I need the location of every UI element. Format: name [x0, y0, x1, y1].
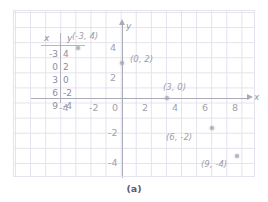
y-tick-label-neg2: -2: [108, 128, 117, 138]
y-axis-line: [122, 24, 123, 178]
figure-caption: (a): [0, 183, 268, 194]
table-row: 3: [42, 75, 58, 85]
y-tick-label-2: 2: [110, 73, 116, 83]
data-point-marker: [120, 61, 124, 65]
table-row: 4: [63, 49, 69, 59]
y-axis-label: y: [126, 22, 131, 31]
table-row: 6: [42, 88, 58, 98]
data-point-label: (6, -2): [166, 133, 192, 142]
x-tick-label-2: 2: [142, 103, 148, 113]
table-row: 0: [42, 62, 58, 72]
data-point-label: (0, 2): [130, 55, 153, 64]
table-row: -2: [63, 88, 72, 98]
y-tick-label-neg4: -4: [108, 158, 117, 168]
data-point-marker: [235, 154, 239, 158]
graph-paper: x y -4 -2 0 2 4 6 8 4 2 -2 -4 (-3, 4) (0…: [13, 10, 255, 177]
table-row: -3: [42, 49, 58, 59]
table-row: 2: [63, 62, 69, 72]
table-row: 0: [63, 75, 69, 85]
x-tick-label-4: 4: [172, 103, 178, 113]
y-tick-label-4: 4: [110, 43, 116, 53]
data-point-label: (9, -4): [201, 160, 227, 169]
data-point-label: (3, 0): [163, 83, 186, 92]
table-row: 9: [42, 101, 58, 111]
table-header-x: x: [44, 33, 49, 43]
x-tick-label-neg2: -2: [89, 103, 98, 113]
x-axis-label: x: [254, 93, 259, 102]
value-table: x y -3 4 0 2 3 0 6 -2 9 -4: [41, 33, 85, 105]
table-row: -4: [63, 101, 72, 111]
x-tick-label-0: 0: [112, 103, 118, 113]
table-header-rule: [41, 45, 85, 46]
data-point-marker: [210, 126, 214, 130]
y-axis-arrowhead: [119, 19, 125, 25]
x-tick-label-6: 6: [202, 103, 208, 113]
x-axis-arrowhead: [247, 94, 253, 100]
table-column-divider: [60, 33, 61, 103]
data-point-marker: [165, 96, 169, 100]
x-tick-label-8: 8: [232, 103, 238, 113]
table-header-y: y: [67, 33, 72, 43]
